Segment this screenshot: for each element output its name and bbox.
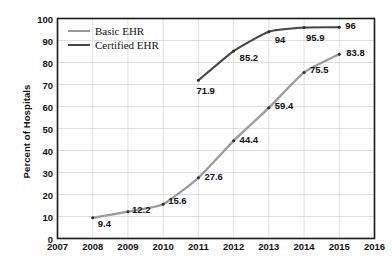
- ehr-adoption-line-chart: Percent of Hospitals 0102030405060708090…: [0, 0, 392, 269]
- data-point-marker: [338, 26, 341, 29]
- legend-item-certified-ehr[interactable]: Certified EHR: [68, 38, 159, 52]
- legend-item-basic-ehr[interactable]: Basic EHR: [68, 24, 159, 38]
- data-point-marker: [267, 30, 270, 33]
- data-point-marker: [338, 53, 341, 56]
- legend-swatch-line-icon: [68, 30, 90, 32]
- data-point-marker: [197, 176, 200, 179]
- plot-area: [0, 0, 392, 269]
- y-axis-title: Percent of Hospitals: [21, 62, 32, 202]
- data-point-marker: [303, 71, 306, 74]
- data-point-marker: [232, 139, 235, 142]
- legend-swatch-line-icon: [68, 44, 90, 46]
- data-point-marker: [126, 210, 129, 213]
- legend-label: Basic EHR: [95, 25, 144, 37]
- legend-label: Certified EHR: [95, 39, 159, 51]
- chart-legend: Basic EHRCertified EHR: [68, 24, 159, 52]
- data-point-marker: [162, 203, 165, 206]
- data-point-marker: [267, 106, 270, 109]
- data-point-marker: [303, 26, 306, 29]
- data-point-marker: [197, 79, 200, 82]
- data-point-marker: [232, 50, 235, 53]
- data-point-marker: [91, 216, 94, 219]
